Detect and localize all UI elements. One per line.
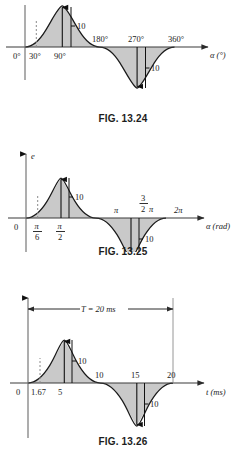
period-label: T = 20 ms — [81, 304, 116, 314]
chart-13-26: T = 20 ms 10 10 0 1.67 5 10 15 20 t (ms) — [0, 258, 246, 438]
x-tick-pi-over-6: π 6 — [33, 221, 42, 242]
svg-text:π: π — [35, 221, 40, 231]
x-tick-360deg: 360° — [168, 34, 184, 44]
x-tick-90deg: 90° — [54, 51, 66, 61]
x-tick-30deg: 30° — [29, 51, 41, 61]
amplitude-label-negative: 10 — [145, 234, 154, 244]
x-tick-pi-over-2: π 2 — [56, 221, 65, 242]
x-axis-label: t (ms) — [206, 387, 226, 397]
x-tick-three-halves-pi: 3 2 π — [140, 193, 155, 214]
figure-13-26: T = 20 ms 10 10 0 1.67 5 10 15 20 t (ms)… — [0, 258, 246, 457]
chart-13-24: 10 10 0° 30° 90° 180° 270° 360° α (°) — [0, 0, 246, 112]
svg-text:π: π — [149, 204, 154, 214]
svg-text:2: 2 — [58, 232, 62, 242]
amplitude-label-positive: 10 — [78, 356, 87, 366]
figure-caption-13-25: FIG. 13.25 — [0, 246, 246, 257]
svg-text:π: π — [58, 221, 63, 231]
x-tick-0deg: 0° — [13, 51, 21, 61]
x-axis-label: α (rad) — [206, 221, 230, 231]
svg-text:6: 6 — [35, 232, 39, 242]
amplitude-label-positive: 10 — [75, 192, 84, 202]
x-tick-pi: π — [114, 205, 119, 215]
x-tick-5: 5 — [58, 387, 62, 397]
x-tick-10: 10 — [95, 370, 104, 380]
x-tick-15: 15 — [131, 370, 140, 380]
amplitude-label-positive: 10 — [77, 21, 86, 31]
x-tick-180deg: 180° — [92, 34, 108, 44]
y-axis-label: e — [31, 151, 35, 161]
x-tick-1-67: 1.67 — [31, 387, 46, 397]
amplitude-label-negative: 10 — [151, 63, 160, 73]
x-tick-0: 0 — [14, 222, 18, 232]
svg-text:2: 2 — [141, 204, 145, 214]
figure-caption-13-26: FIG. 13.26 — [0, 436, 246, 447]
x-tick-two-pi: 2π — [174, 205, 183, 215]
x-tick-0: 0 — [16, 387, 20, 397]
figure-13-24: 10 10 0° 30° 90° 180° 270° 360° α (°) FI… — [0, 0, 246, 130]
x-tick-270deg: 270° — [128, 34, 144, 44]
chart-13-25: e 10 10 0 π 6 π 2 π 3 2 — [0, 128, 246, 252]
figure-13-25: e 10 10 0 π 6 π 2 π 3 2 — [0, 128, 246, 258]
figure-caption-13-24: FIG. 13.24 — [0, 113, 246, 124]
amplitude-label-negative: 10 — [150, 399, 159, 409]
svg-text:3: 3 — [141, 193, 145, 203]
x-tick-20: 20 — [167, 370, 176, 380]
x-axis-label: α (°) — [210, 50, 226, 60]
